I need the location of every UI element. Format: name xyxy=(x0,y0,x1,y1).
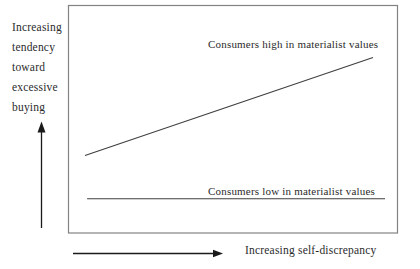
y-axis-label-line: tendency xyxy=(12,37,72,57)
x-axis-label: Increasing self-discrepancy xyxy=(245,244,377,256)
y-axis-label-line: buying xyxy=(12,97,72,117)
series-label-high-materialist: Consumers high in materialist values xyxy=(208,38,378,50)
y-axis-label-line: Increasing xyxy=(12,17,72,37)
y-axis-label-line: toward xyxy=(12,57,72,77)
series-label-low-materialist: Consumers low in materialist values xyxy=(208,185,375,197)
series-lines-group xyxy=(85,57,385,198)
x-axis-arrowhead-icon xyxy=(213,250,223,257)
figure-canvas: Increasing tendency toward excessive buy… xyxy=(0,0,420,269)
y-axis-label-line: excessive xyxy=(12,77,72,97)
y-axis-arrowhead-icon xyxy=(38,122,46,133)
y-axis-label: Increasing tendency toward excessive buy… xyxy=(12,17,72,117)
series-line-high xyxy=(85,57,373,155)
